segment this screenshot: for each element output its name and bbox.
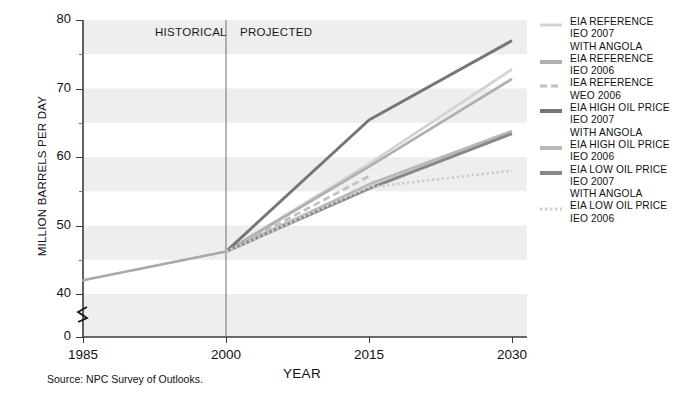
y-tick-mark [76, 89, 83, 90]
y-tick-label-40: 40 [31, 285, 71, 300]
x-tick-mark [226, 337, 227, 343]
legend-label: EIA REFERENCEIEO 2006 [570, 53, 699, 78]
legend-item-1[interactable]: EIA REFERENCEIEO 2006 [540, 53, 699, 78]
x-tick-label-1985: 1985 [43, 347, 123, 362]
x-axis-label: YEAR [283, 366, 321, 381]
legend-label-line: WITH ANGOLA [570, 41, 699, 53]
legend-label-line: EIA REFERENCE [570, 53, 699, 65]
y-tick-mark [76, 20, 83, 21]
chart-root: MILLION BARRELS PER DAY 8070605040019852… [0, 0, 699, 404]
chart-legend: EIA REFERENCEIEO 2007WITH ANGOLAEIA REFE… [540, 16, 699, 225]
legend-swatch-icon [540, 22, 562, 28]
x-tick-mark [83, 337, 84, 343]
annotation-projected: PROJECTED [240, 26, 312, 38]
annotation-historical: HISTORICAL [155, 26, 227, 38]
legend-item-2[interactable]: IEA REFERENCEWEO 2006 [540, 77, 699, 102]
chart-band [83, 157, 527, 191]
legend-swatch-icon [540, 145, 562, 151]
x-tick-label-2015: 2015 [329, 347, 409, 362]
legend-swatch-icon [540, 170, 562, 176]
legend-label-line: IEO 2006 [570, 65, 699, 77]
legend-label-line: IEO 2007 [570, 28, 699, 40]
legend-label-line: IEO 2007 [570, 114, 699, 126]
legend-item-6[interactable]: EIA LOW OIL PRICEIEO 2006 [540, 200, 699, 225]
x-tick-label-2000: 2000 [186, 347, 266, 362]
legend-label-line: IEA REFERENCE [570, 77, 699, 89]
legend-label: EIA HIGH OIL PRICEIEO 2006 [570, 139, 699, 164]
y-tick-mark [76, 294, 83, 295]
legend-label-line: WITH ANGOLA [570, 127, 699, 139]
legend-item-4[interactable]: EIA HIGH OIL PRICEIEO 2006 [540, 139, 699, 164]
legend-item-3[interactable]: EIA HIGH OIL PRICEIEO 2007WITH ANGOLA [540, 102, 699, 139]
chart-band [83, 89, 527, 123]
legend-swatch-icon [540, 59, 562, 65]
legend-label-line: WEO 2006 [570, 90, 699, 102]
legend-item-5[interactable]: EIA LOW OIL PRICEIEO 2007WITH ANGOLA [540, 164, 699, 201]
y-tick-label-50: 50 [31, 217, 71, 232]
y-tick-mark [76, 226, 83, 227]
legend-label-line: EIA LOW OIL PRICE [570, 200, 699, 212]
y-tick-label-0: 0 [31, 328, 71, 343]
legend-swatch-icon [540, 83, 562, 89]
chart-band-break [83, 294, 527, 337]
y-tick-mark [79, 260, 83, 261]
legend-label-line: IEO 2007 [570, 176, 699, 188]
legend-item-0[interactable]: EIA REFERENCEIEO 2007WITH ANGOLA [540, 16, 699, 53]
legend-label: EIA LOW OIL PRICEIEO 2007WITH ANGOLA [570, 164, 699, 201]
chart-band [83, 226, 527, 260]
x-tick-label-2030: 2030 [472, 347, 552, 362]
y-tick-mark [76, 337, 83, 338]
y-tick-label-80: 80 [31, 11, 71, 26]
x-tick-mark [369, 337, 370, 343]
y-tick-label-70: 70 [31, 80, 71, 95]
y-tick-mark [79, 123, 83, 124]
legend-label-line: IEO 2006 [570, 213, 699, 225]
source-note: Source: NPC Survey of Outlooks. [47, 373, 203, 385]
legend-label: IEA REFERENCEWEO 2006 [570, 77, 699, 102]
y-tick-mark [76, 157, 83, 158]
legend-label-line: EIA LOW OIL PRICE [570, 164, 699, 176]
legend-swatch-icon [540, 206, 562, 212]
y-tick-mark [79, 54, 83, 55]
x-tick-mark [512, 337, 513, 343]
y-tick-label-60: 60 [31, 148, 71, 163]
legend-label-line: EIA REFERENCE [570, 16, 699, 28]
legend-swatch-icon [540, 108, 562, 114]
y-tick-mark [79, 191, 83, 192]
legend-label-line: EIA HIGH OIL PRICE [570, 139, 699, 151]
legend-label: EIA HIGH OIL PRICEIEO 2007WITH ANGOLA [570, 102, 699, 139]
legend-label-line: IEO 2006 [570, 151, 699, 163]
legend-label: EIA REFERENCEIEO 2007WITH ANGOLA [570, 16, 699, 53]
legend-label: EIA LOW OIL PRICEIEO 2006 [570, 200, 699, 225]
legend-label-line: EIA HIGH OIL PRICE [570, 102, 699, 114]
legend-label-line: WITH ANGOLA [570, 188, 699, 200]
